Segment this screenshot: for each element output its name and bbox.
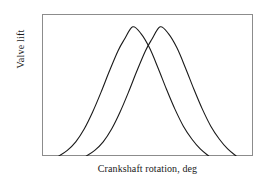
curve-1 <box>59 27 209 156</box>
curve-layer <box>42 14 253 156</box>
y-axis-title: Valve lift <box>14 0 28 120</box>
x-axis-title: Crankshaft rotation, deg <box>42 162 253 175</box>
valve-lift-chart: Valve lift Crankshaft rotation, deg <box>0 0 277 185</box>
curve-2 <box>86 27 236 156</box>
